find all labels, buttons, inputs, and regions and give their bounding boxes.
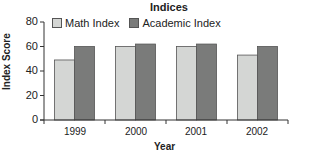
- bar-math-index-2001: [177, 47, 197, 121]
- bar-math-index-2000: [116, 47, 136, 121]
- bar-math-index-2002: [238, 55, 258, 120]
- x-tick-2002: 2002: [237, 126, 277, 137]
- x-tick-1999: 1999: [55, 126, 95, 137]
- bar-academic-index-2000: [136, 44, 156, 120]
- bar-academic-index-1999: [75, 47, 95, 121]
- x-axis-label: Year: [154, 141, 175, 152]
- x-tick-2000: 2000: [116, 126, 156, 137]
- bar-math-index-1999: [55, 60, 75, 120]
- x-tick-2001: 2001: [176, 126, 216, 137]
- bar-academic-index-2002: [258, 47, 278, 121]
- bar-academic-index-2001: [197, 44, 217, 120]
